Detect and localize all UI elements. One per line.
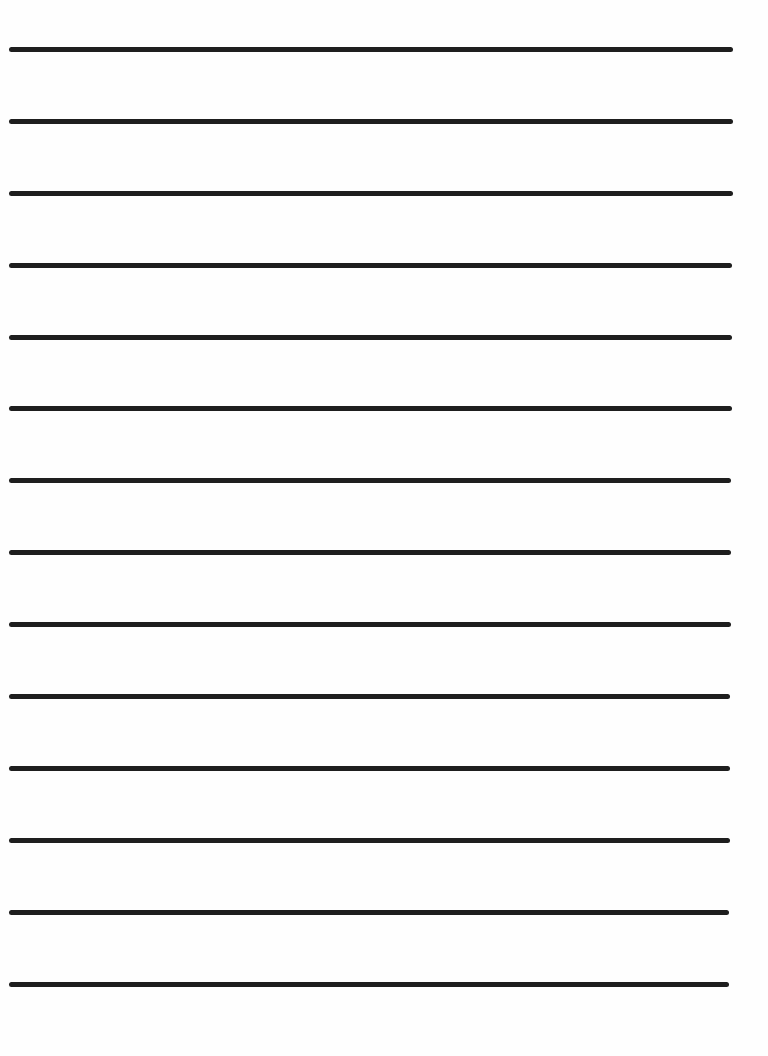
ruled-line bbox=[9, 263, 732, 268]
ruled-line bbox=[9, 550, 731, 555]
ruled-line bbox=[9, 47, 733, 52]
ruled-line bbox=[9, 982, 729, 987]
ruled-line bbox=[9, 838, 730, 843]
ruled-line bbox=[9, 910, 729, 915]
ruled-line bbox=[9, 191, 733, 196]
lined-paper-sheet bbox=[0, 0, 768, 1056]
ruled-line bbox=[9, 622, 731, 627]
ruled-line bbox=[9, 478, 731, 483]
ruled-line bbox=[9, 694, 730, 699]
ruled-line bbox=[9, 406, 732, 411]
ruled-line bbox=[9, 119, 733, 124]
ruled-line bbox=[9, 335, 732, 340]
ruled-line bbox=[9, 766, 730, 771]
